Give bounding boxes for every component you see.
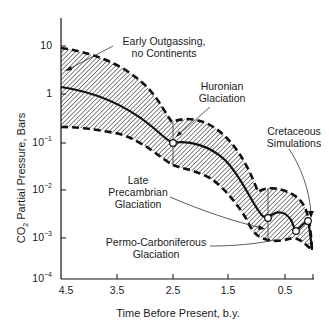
x-tick-4-5: 4.5 bbox=[51, 284, 81, 296]
annotation-early-outgassing: Early Outgassing, no Continents bbox=[114, 35, 214, 59]
y-tick-1: 1 bbox=[12, 87, 52, 99]
permo-carboniferous-pointer bbox=[210, 240, 275, 246]
y-axis-label: CO2 Partial Pressure, Bars bbox=[15, 113, 29, 243]
annotation-huronian: Huronian Glaciation bbox=[187, 80, 257, 104]
x-axis-label: Time Before Present, b.y. bbox=[98, 307, 258, 319]
cretaceous-arrowhead bbox=[308, 211, 314, 218]
uncertainty-band bbox=[61, 48, 312, 250]
x-tick-3-5: 3.5 bbox=[102, 284, 132, 296]
late-precambrian-marker bbox=[265, 215, 272, 222]
annotation-permo-carboniferous: Permo-Carboniferous Glaciation bbox=[102, 236, 210, 260]
annotation-cretaceous: Cretaceous Simulations bbox=[259, 125, 329, 149]
x-tick-2-5: 2.5 bbox=[158, 284, 188, 296]
x-ticks bbox=[117, 274, 313, 279]
huronian-marker bbox=[170, 140, 177, 147]
permo-carboniferous-marker bbox=[293, 228, 300, 235]
x-tick-1-5: 1.5 bbox=[213, 284, 243, 296]
y-tick-1e-4: 10−4 bbox=[12, 271, 52, 284]
x-tick-0-5: 0.5 bbox=[270, 284, 300, 296]
cretaceous-marker bbox=[305, 218, 312, 225]
annotation-late-precambrian: Late Precambrian Glaciation bbox=[103, 174, 173, 210]
y-tick-10: 10 bbox=[12, 39, 52, 51]
